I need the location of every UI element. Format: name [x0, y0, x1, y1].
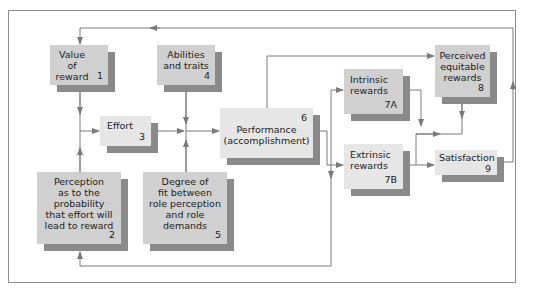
node-number: 8 [478, 82, 484, 93]
node-label: Perceived equitable rewards [435, 50, 490, 83]
node-number: 2 [109, 229, 115, 240]
node-face: Intrinsic rewards 7A [344, 69, 403, 114]
node-label: Intrinsic rewards [350, 74, 388, 96]
node-number: 3 [139, 131, 145, 142]
node-label: Performance (accomplishment) [220, 124, 313, 146]
node-face: Perception as to the probability that ef… [37, 172, 121, 244]
node-number: 1 [97, 70, 103, 81]
node-face: Abilities and traits 4 [157, 45, 215, 85]
node-label: Abilities and traits [157, 49, 215, 71]
node-label: Extrinsic rewards [350, 149, 391, 171]
node-label: Perception as to the probability that ef… [37, 176, 121, 231]
node-face: Degree of fit between role perception an… [143, 172, 227, 244]
node-label: Value of reward [54, 49, 90, 82]
node-label: Effort [107, 120, 133, 131]
node-face: Perceived equitable rewards 8 [435, 45, 490, 97]
node-label: Satisfaction [439, 152, 495, 163]
node-number: 5 [215, 229, 221, 240]
edge-6-to-7A [331, 90, 343, 165]
edge-7A-to-9 [410, 90, 421, 126]
node-number: 6 [301, 112, 307, 123]
node-face: Performance (accomplishment) 6 [220, 108, 313, 158]
node-face: Satisfaction 9 [435, 150, 497, 175]
node-label: Degree of fit between role perception an… [143, 176, 227, 231]
node-number: 4 [204, 70, 210, 81]
node-number: 9 [485, 163, 491, 174]
node-number: 7A [384, 99, 397, 110]
node-face: Extrinsic rewards 7B [344, 144, 403, 189]
node-face: Effort 3 [100, 116, 151, 146]
edge-junction-to-3 [80, 92, 99, 172]
node-number: 7B [384, 174, 397, 185]
node-face: Value of reward 1 [50, 45, 108, 85]
